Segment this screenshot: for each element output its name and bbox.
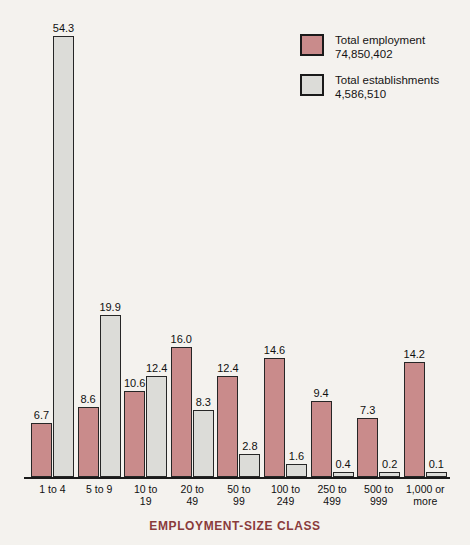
bar-total-employment-0 — [31, 423, 52, 477]
bar-total-establishments-3 — [193, 410, 214, 477]
bar-value-label: 0.4 — [326, 458, 360, 470]
bar-value-label: 0.2 — [373, 458, 407, 470]
bar-value-label: 0.1 — [419, 458, 453, 470]
bar-total-employment-4 — [217, 376, 238, 477]
bar-total-employment-3 — [171, 347, 192, 477]
category-label-line: 249 — [277, 495, 295, 507]
category-label-line: 19 — [140, 495, 152, 507]
category-label-line: 999 — [370, 495, 388, 507]
bar-value-label: 12.4 — [211, 362, 245, 374]
category-label-line: 100 to — [271, 483, 300, 495]
category-label-line: 10 to — [134, 483, 157, 495]
bar-total-establishments-1 — [100, 315, 121, 477]
category-label-line: 49 — [186, 495, 198, 507]
bar-total-establishments-8 — [426, 472, 447, 477]
bar-value-label: 19.9 — [93, 301, 127, 313]
bar-value-label: 8.3 — [186, 396, 220, 408]
bar-total-establishments-7 — [379, 472, 400, 477]
bar-total-establishments-0 — [53, 36, 74, 477]
bar-total-establishments-4 — [239, 454, 260, 477]
category-label-line: 99 — [233, 495, 245, 507]
category-label-line: 5 to 9 — [86, 483, 112, 495]
bar-value-label: 16.0 — [164, 333, 198, 345]
category-label-line: 1 to 4 — [39, 483, 65, 495]
bar-value-label: 14.6 — [258, 344, 292, 356]
category-label-line: 20 to — [181, 483, 204, 495]
bar-total-employment-2 — [124, 391, 145, 477]
category-label-line: 1,000 or — [406, 483, 445, 495]
plot-area: 6.754.31 to 48.619.95 to 910.612.410 to1… — [0, 0, 470, 545]
bar-value-label: 54.3 — [47, 22, 81, 34]
bar-total-establishments-5 — [286, 464, 307, 477]
category-label-line: 500 to — [364, 483, 393, 495]
category-label-line: 50 to — [227, 483, 250, 495]
bar-value-label: 12.4 — [140, 362, 174, 374]
bar-value-label: 9.4 — [304, 387, 338, 399]
bar-value-label: 1.6 — [280, 450, 314, 462]
bar-value-label: 14.2 — [397, 348, 431, 360]
category-label-line: 250 to — [317, 483, 346, 495]
bar-value-label: 7.3 — [351, 404, 385, 416]
x-axis-title: EMPLOYMENT-SIZE CLASS — [0, 519, 470, 533]
category-label-line: 499 — [323, 495, 341, 507]
x-axis-line — [24, 477, 450, 479]
x-axis-category-label: 1,000 ormore — [397, 483, 453, 507]
bar-total-employment-1 — [78, 407, 99, 477]
category-label-line: more — [413, 495, 437, 507]
bar-value-label: 2.8 — [233, 440, 267, 452]
bar-total-establishments-6 — [333, 472, 354, 477]
bar-chart: Total employment 74,850,402 Total establ… — [0, 0, 470, 545]
bar-total-establishments-2 — [146, 376, 167, 477]
